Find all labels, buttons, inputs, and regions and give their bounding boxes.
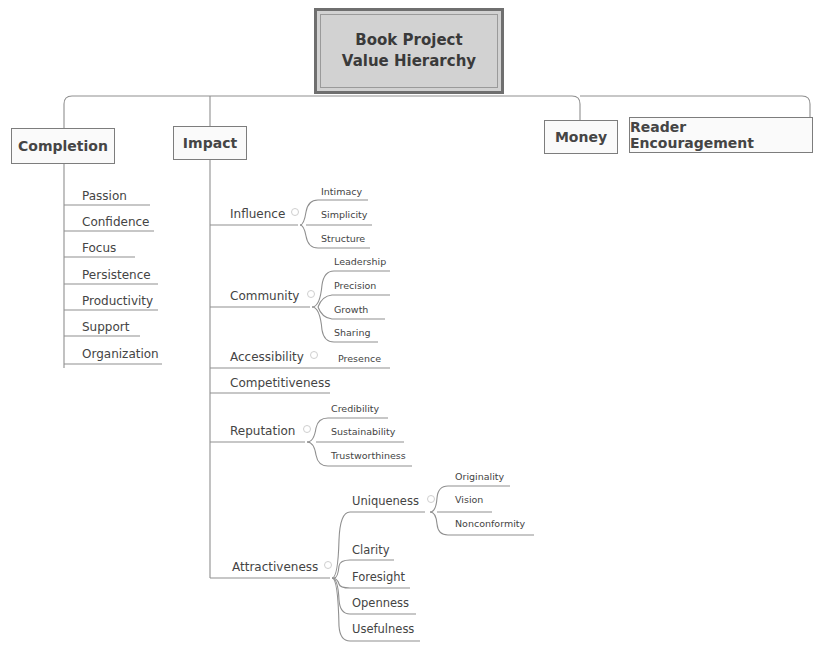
main-topic-impact[interactable]: Impact xyxy=(173,126,247,160)
subtopic-trustworthiness[interactable]: Trustworthiness xyxy=(331,450,406,461)
subtopic-precision[interactable]: Precision xyxy=(334,280,376,291)
collapse-toggle-icon[interactable] xyxy=(324,561,332,569)
subtopic-support[interactable]: Support xyxy=(82,320,129,334)
subtopic-accessibility[interactable]: Accessibility xyxy=(230,350,304,364)
subtopic-originality[interactable]: Originality xyxy=(455,471,504,482)
main-topic-label: Completion xyxy=(18,138,108,154)
collapse-toggle-icon[interactable] xyxy=(303,425,311,433)
subtopic-influence[interactable]: Influence xyxy=(230,207,285,221)
root-title-line2: Value Hierarchy xyxy=(342,51,476,72)
subtopic-uniqueness[interactable]: Uniqueness xyxy=(352,494,419,508)
subtopic-foresight[interactable]: Foresight xyxy=(352,570,405,584)
subtopic-attractiveness[interactable]: Attractiveness xyxy=(232,560,318,574)
main-topic-money[interactable]: Money xyxy=(544,120,618,154)
subtopic-vision[interactable]: Vision xyxy=(455,494,483,505)
subtopic-growth[interactable]: Growth xyxy=(334,304,368,315)
subtopic-competitiveness[interactable]: Competitiveness xyxy=(230,376,330,390)
main-topic-label: Money xyxy=(555,129,607,145)
root-topic[interactable]: Book Project Value Hierarchy xyxy=(314,8,504,94)
subtopic-nonconformity[interactable]: Nonconformity xyxy=(455,518,525,529)
main-topic-label: Reader Encouragement xyxy=(630,119,812,151)
subtopic-community[interactable]: Community xyxy=(230,289,299,303)
subtopic-credibility[interactable]: Credibility xyxy=(331,403,379,414)
subtopic-persistence[interactable]: Persistence xyxy=(82,268,151,282)
subtopic-presence[interactable]: Presence xyxy=(338,353,381,364)
subtopic-reputation[interactable]: Reputation xyxy=(230,424,295,438)
subtopic-sustainability[interactable]: Sustainability xyxy=(331,426,395,437)
subtopic-organization[interactable]: Organization xyxy=(82,347,159,361)
root-title-line1: Book Project xyxy=(355,30,462,51)
collapse-toggle-icon[interactable] xyxy=(427,495,435,503)
subtopic-intimacy[interactable]: Intimacy xyxy=(321,186,362,197)
subtopic-openness[interactable]: Openness xyxy=(352,596,409,610)
subtopic-clarity[interactable]: Clarity xyxy=(352,543,390,557)
main-topic-completion[interactable]: Completion xyxy=(11,128,115,164)
collapse-toggle-icon[interactable] xyxy=(291,208,299,216)
subtopic-focus[interactable]: Focus xyxy=(82,241,116,255)
mind-map-canvas: Book Project Value Hierarchy Completion … xyxy=(0,0,820,652)
subtopic-structure[interactable]: Structure xyxy=(321,233,365,244)
subtopic-productivity[interactable]: Productivity xyxy=(82,294,153,308)
subtopic-sharing[interactable]: Sharing xyxy=(334,327,370,338)
collapse-toggle-icon[interactable] xyxy=(307,290,315,298)
collapse-toggle-icon[interactable] xyxy=(310,351,318,359)
main-topic-reader-encouragement[interactable]: Reader Encouragement xyxy=(629,117,813,153)
subtopic-passion[interactable]: Passion xyxy=(82,189,127,203)
main-topic-label: Impact xyxy=(183,135,237,151)
subtopic-usefulness[interactable]: Usefulness xyxy=(352,622,414,636)
subtopic-leadership[interactable]: Leadership xyxy=(334,256,386,267)
subtopic-confidence[interactable]: Confidence xyxy=(82,215,149,229)
subtopic-simplicity[interactable]: Simplicity xyxy=(321,209,367,220)
